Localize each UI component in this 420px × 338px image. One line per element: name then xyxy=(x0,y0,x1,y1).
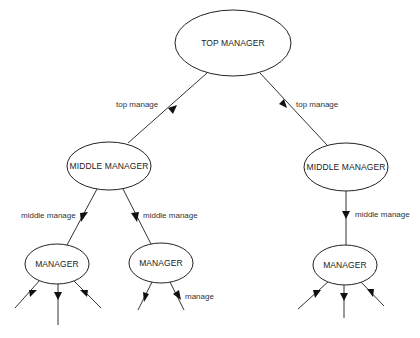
edge-label-manage: manage xyxy=(185,292,214,301)
node-label: MIDDLE MANAGER xyxy=(70,161,149,171)
arrowhead-icon xyxy=(29,290,37,297)
node-top-manager: TOP MANAGER xyxy=(175,10,291,76)
node-label: MANAGER xyxy=(323,260,367,270)
org-chart-diagram: TOP MANAGER MIDDLE MANAGER MIDDLE MANAGE… xyxy=(0,0,420,338)
edge-label-top-right: top manage xyxy=(296,100,339,109)
arrowhead-icon xyxy=(313,290,321,298)
edge-label-mid-right: middle manage xyxy=(355,210,410,219)
node-label: MANAGER xyxy=(139,258,183,268)
edge-label-mid-left-2: middle manage xyxy=(143,211,198,220)
arrowhead-icon xyxy=(80,290,88,297)
arrowhead-icon xyxy=(131,212,139,222)
arrowhead-icon xyxy=(80,212,88,222)
node-label: TOP MANAGER xyxy=(201,38,265,48)
node-middle-manager-left: MIDDLE MANAGER xyxy=(67,142,151,190)
node-manager-left: MANAGER xyxy=(25,244,89,284)
arrowhead-icon xyxy=(143,292,149,302)
node-label: MIDDLE MANAGER xyxy=(307,162,386,172)
arrowhead-icon xyxy=(342,211,350,219)
arrowhead-icon xyxy=(367,289,374,297)
edge-label-mid-left-1: middle manage xyxy=(21,211,76,220)
edge-mgr-left-sub-1 xyxy=(15,280,40,308)
node-manager-right: MANAGER xyxy=(313,245,377,285)
edge-top-to-mid-right xyxy=(260,73,327,145)
arrowhead-icon xyxy=(340,293,348,301)
node-label: MANAGER xyxy=(35,259,79,269)
node-manager-center: MANAGER xyxy=(129,243,193,283)
edge-label-top-left: top manage xyxy=(116,100,159,109)
edge-mgr-right-sub-1 xyxy=(298,281,329,309)
node-middle-manager-right: MIDDLE MANAGER xyxy=(304,143,388,191)
arrowhead-icon xyxy=(54,292,62,300)
